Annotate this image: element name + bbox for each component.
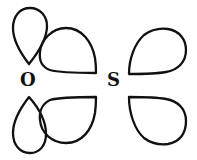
o-upper-vertical-lobe bbox=[13, 8, 47, 64]
o-lower-horizontal-lobe bbox=[40, 97, 96, 143]
orbital-diagram: O S bbox=[0, 0, 197, 160]
oxygen-atom-label: O bbox=[20, 71, 36, 89]
s-lower-lobe bbox=[129, 97, 186, 144]
o-upper-horizontal-lobe bbox=[40, 28, 96, 73]
s-upper-lobe bbox=[129, 29, 186, 74]
sulfur-atom-label: S bbox=[107, 71, 120, 89]
